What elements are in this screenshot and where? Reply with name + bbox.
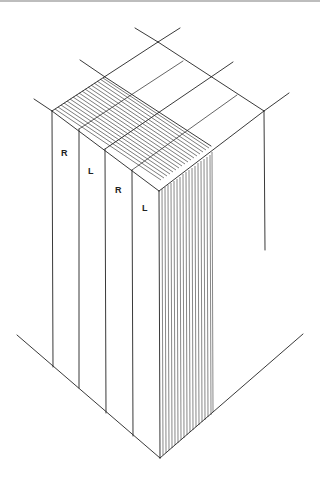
grid-line xyxy=(80,60,105,77)
top-edge-front-right xyxy=(159,111,264,191)
grid-line xyxy=(158,28,180,42)
isometric-lamellae-diagram: R L R L xyxy=(0,0,320,485)
grid-line xyxy=(211,62,233,77)
label-l-1: L xyxy=(88,166,94,176)
top-edge-back-right xyxy=(158,42,264,111)
left-vertical xyxy=(52,111,53,367)
right-vertical xyxy=(264,111,265,250)
side-hatching xyxy=(162,152,213,455)
label-r-2: R xyxy=(115,185,122,195)
front-corner-vertical xyxy=(159,191,160,458)
grid-line xyxy=(264,93,289,111)
grid-line xyxy=(135,28,158,42)
label-r-1: R xyxy=(61,148,68,158)
ground-line-right xyxy=(160,334,303,458)
ground-line-left xyxy=(17,335,160,458)
label-l-2: L xyxy=(142,203,148,213)
top-hatching xyxy=(55,78,209,180)
grid-line xyxy=(34,99,52,111)
